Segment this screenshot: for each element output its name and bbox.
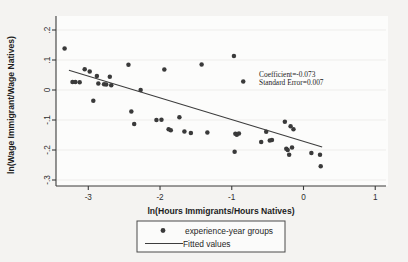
chart-annotations: Coefficient=-0.073Standard Error=0.007 bbox=[259, 70, 324, 87]
data-point bbox=[318, 153, 323, 158]
data-point bbox=[95, 74, 100, 79]
data-point bbox=[241, 79, 246, 84]
data-point bbox=[159, 117, 164, 122]
data-point bbox=[182, 129, 187, 134]
data-point bbox=[82, 67, 87, 72]
data-point bbox=[169, 128, 174, 133]
data-point bbox=[129, 109, 134, 114]
x-tick-label: -3 bbox=[85, 193, 93, 202]
data-point bbox=[290, 145, 295, 150]
data-point bbox=[162, 67, 167, 72]
data-point bbox=[232, 54, 237, 59]
scatter-plot: -3-2-101 .2.10-.1-.2-.3 Coefficient=-0.0… bbox=[0, 0, 408, 262]
data-point bbox=[259, 140, 264, 145]
data-point bbox=[205, 130, 210, 135]
data-point bbox=[285, 148, 290, 153]
y-tick-label: -.3 bbox=[43, 175, 52, 185]
legend: experience-year groups Fitted values bbox=[137, 221, 285, 252]
data-point bbox=[199, 62, 204, 67]
legend-marker-scatter bbox=[161, 228, 166, 233]
data-point bbox=[96, 81, 101, 86]
x-tick-label: -2 bbox=[156, 193, 164, 202]
data-point bbox=[177, 115, 182, 120]
data-point bbox=[318, 164, 323, 169]
data-point bbox=[62, 46, 67, 51]
data-point bbox=[126, 63, 131, 68]
x-axis-title: ln(Hours Immigrants/Hours Natives) bbox=[147, 206, 294, 216]
x-tick-label: 1 bbox=[373, 193, 378, 202]
data-point bbox=[91, 99, 96, 104]
data-point bbox=[287, 153, 292, 158]
x-tick-label: -1 bbox=[228, 193, 236, 202]
data-point bbox=[77, 80, 82, 85]
regression-annotation: Standard Error=0.007 bbox=[259, 78, 324, 87]
data-point bbox=[87, 69, 92, 74]
data-point bbox=[154, 118, 159, 123]
data-point bbox=[283, 120, 288, 125]
data-point bbox=[309, 151, 314, 156]
chart-figure: -3-2-101 .2.10-.1-.2-.3 Coefficient=-0.0… bbox=[0, 0, 408, 262]
y-axis-title: ln(Wage Immigrant/Wage Natives) bbox=[6, 36, 16, 174]
data-point bbox=[132, 122, 137, 127]
data-point bbox=[270, 138, 275, 143]
plot-area-background bbox=[56, 16, 388, 186]
data-point bbox=[237, 131, 242, 136]
y-tick-label: .2 bbox=[43, 26, 52, 33]
y-tick-label: 0 bbox=[43, 87, 52, 92]
data-point bbox=[232, 150, 237, 155]
y-tick-label: -.1 bbox=[43, 115, 52, 125]
data-point bbox=[108, 75, 113, 80]
data-point bbox=[189, 131, 194, 136]
data-point bbox=[104, 82, 109, 87]
y-tick-label: .1 bbox=[43, 56, 52, 63]
data-point bbox=[73, 80, 78, 85]
legend-label-scatter: experience-year groups bbox=[185, 226, 273, 236]
data-point bbox=[291, 127, 296, 132]
legend-label-line: Fitted values bbox=[183, 239, 230, 249]
x-tick-label: 0 bbox=[301, 193, 306, 202]
y-tick-label: -.2 bbox=[43, 145, 52, 155]
